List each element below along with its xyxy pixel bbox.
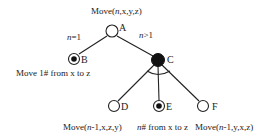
edge-c-d (118, 65, 154, 101)
open-node-icon (106, 25, 118, 37)
node-e-label: E (166, 101, 172, 112)
node-b-caption: Move 1# from x to z (16, 68, 90, 78)
node-f-caption: Move(n-1,y,x,z) (195, 122, 253, 132)
node-e: E n# from x to z (137, 101, 188, 133)
edge-c-f (162, 65, 199, 101)
node-b-label: B (81, 54, 88, 65)
edge-label-n-eq-1: n=1 (67, 32, 81, 42)
open-node-icon (109, 101, 120, 112)
node-d-label: D (121, 101, 128, 112)
node-a: A (106, 22, 127, 37)
edge-a-b (79, 36, 107, 54)
node-e-caption: n# from x to z (137, 122, 188, 132)
node-c: C (152, 54, 175, 67)
edge-label-n-gt-1: n>1 (139, 30, 153, 40)
node-a-label: A (119, 22, 127, 33)
node-b: B Move 1# from x to z (16, 54, 90, 79)
open-node-icon (198, 101, 209, 112)
edge-c-e (158, 66, 159, 100)
filled-node-icon (152, 54, 165, 67)
root-title: Move(n,x,y,z) (91, 6, 142, 16)
node-d: D Move(n-1,x,z,y) (63, 101, 128, 133)
node-f: F Move(n-1,y,x,z) (195, 101, 253, 133)
terminal-node-dot (156, 103, 162, 109)
node-f-label: F (212, 101, 218, 112)
node-c-label: C (167, 54, 174, 65)
and-or-tree-diagram: Move(n,x,y,z) n=1 n>1 A B Move 1# from x… (0, 0, 265, 136)
node-d-caption: Move(n-1,x,z,y) (63, 122, 122, 132)
terminal-node-dot (71, 56, 77, 62)
